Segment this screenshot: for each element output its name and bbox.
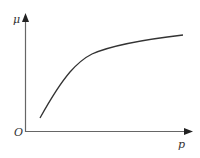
- y-axis-arrow-icon: [22, 13, 29, 22]
- chart-canvas: μ O p: [0, 0, 200, 158]
- x-axis-label: p: [178, 138, 185, 151]
- y-axis: [22, 13, 29, 132]
- mu-vs-p-curve: [40, 35, 183, 118]
- x-axis: [25, 128, 193, 135]
- x-axis-arrow-icon: [184, 128, 193, 135]
- origin-label: O: [14, 126, 23, 139]
- y-axis-label: μ: [13, 13, 20, 26]
